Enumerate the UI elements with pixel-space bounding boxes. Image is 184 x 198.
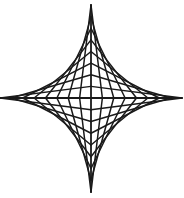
quadrant-lower-left bbox=[0, 98, 91, 192]
quadrant-lower-right bbox=[91, 98, 182, 192]
astroid-string-art-figure bbox=[0, 0, 184, 198]
string-line bbox=[68, 98, 91, 180]
quadrant-upper-left bbox=[0, 5, 91, 98]
cross-axes bbox=[0, 5, 182, 192]
quadrant-upper-right bbox=[91, 5, 182, 98]
string-line bbox=[68, 17, 91, 98]
string-line bbox=[91, 98, 114, 180]
string-line bbox=[91, 17, 114, 98]
